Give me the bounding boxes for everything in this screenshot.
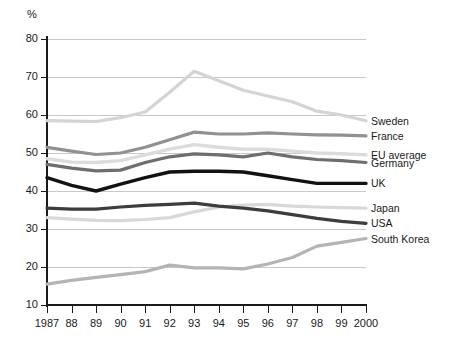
legend-label-germany: Germany: [371, 157, 414, 169]
series-line-france: [47, 132, 366, 154]
legend-label-south-korea: South Korea: [371, 233, 429, 245]
legend-label-japan: Japan: [371, 202, 400, 214]
legend-label-usa: USA: [371, 217, 393, 229]
legend-label-sweden: Sweden: [371, 115, 409, 127]
series-line-sweden: [47, 71, 366, 121]
series-line-south-korea: [47, 239, 366, 285]
line-chart: % 8070605040302010 198788899091929394959…: [0, 0, 451, 355]
series-line-uk: [47, 171, 366, 191]
legend-label-france: France: [371, 130, 404, 142]
legend-label-uk: UK: [371, 177, 386, 189]
